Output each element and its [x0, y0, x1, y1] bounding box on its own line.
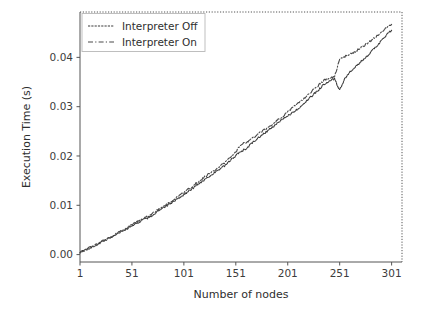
y-tick-label: 0.04 [50, 51, 74, 63]
x-tick-label: 201 [278, 267, 298, 279]
y-tick-label: 0.00 [50, 248, 73, 260]
y-tick-label: 0.01 [50, 199, 73, 211]
chart-figure: 0.000.010.020.030.04 151101151201251301 … [0, 0, 426, 311]
y-axis-title: Execution Time (s) [20, 86, 33, 188]
x-tick-label: 251 [330, 267, 350, 279]
x-tick-label: 301 [382, 267, 402, 279]
x-tick-label: 1 [77, 267, 84, 279]
y-tick-label: 0.02 [50, 150, 73, 162]
x-tick-label: 51 [125, 267, 138, 279]
x-tick-label: 101 [174, 267, 194, 279]
x-tick-label: 151 [226, 267, 246, 279]
x-axis-title: Number of nodes [194, 288, 289, 301]
legend-label-interpreter-off: Interpreter Off [122, 20, 198, 32]
legend-label-interpreter-on: Interpreter On [122, 36, 197, 48]
chart-legend[interactable]: Interpreter Off Interpreter On [82, 14, 205, 52]
line-chart: 0.000.010.020.030.04 151101151201251301 … [0, 0, 426, 311]
y-tick-label: 0.03 [50, 100, 73, 112]
